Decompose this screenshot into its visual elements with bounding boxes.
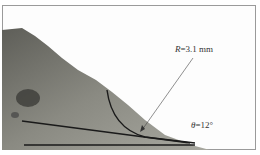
dark-spot	[16, 89, 40, 107]
figure-photo: R=3.1 mm θ=12°	[0, 0, 260, 155]
dark-spot	[11, 112, 19, 118]
angle-label: θ=12°	[191, 120, 213, 130]
photo-drawing	[0, 0, 260, 155]
angle-value: =12°	[195, 120, 213, 130]
leader-arrow	[142, 58, 193, 130]
radius-value: =3.1 mm	[181, 44, 214, 54]
radius-label: R=3.1 mm	[175, 44, 213, 54]
